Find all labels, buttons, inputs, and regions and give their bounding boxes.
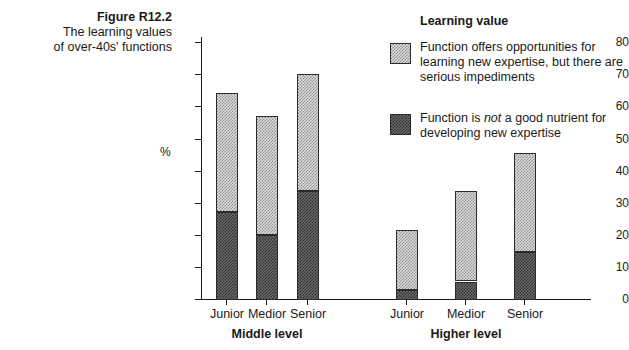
bar-segment-light-middle-medior (256, 116, 278, 235)
legend-item-light: Function offers opportunities for learni… (420, 40, 625, 85)
dark-hatch-swatch-icon (390, 114, 411, 135)
y-tick-60 (195, 106, 202, 107)
x-tick-middle-senior (307, 299, 308, 305)
y-tick-80 (195, 42, 202, 43)
y-tick-70 (195, 74, 202, 75)
y-axis-line (201, 37, 202, 300)
light-hatch-swatch-icon (390, 43, 411, 64)
y-tick-label-10: 10 (451, 261, 629, 273)
bar-segment-dark-higher-medior (455, 282, 477, 300)
y-tick-label-20: 20 (451, 229, 629, 241)
x-label-higher-medior: Medior (436, 307, 496, 321)
legend-item-light-line-2: learning new expertise, but there are (420, 55, 625, 70)
x-tick-higher-senior (524, 299, 525, 305)
legend-dark-emphasis: not (484, 111, 501, 125)
y-tick-label-30: 30 (451, 197, 629, 209)
x-label-higher-senior: Senior (495, 307, 555, 321)
bar-segment-light-higher-junior (396, 230, 418, 290)
y-tick-50 (195, 139, 202, 140)
group-label-higher-level: Higher level (386, 327, 546, 341)
legend-dark-post: a good nutrient for (501, 111, 606, 125)
bar-segment-dark-middle-junior (216, 212, 238, 299)
y-tick-10 (195, 267, 202, 268)
y-tick-30 (195, 203, 202, 204)
y-tick-label-0: 0 (451, 293, 629, 305)
bar-segment-light-higher-medior (455, 191, 477, 281)
figure-root: Figure R12.2 The learning values of over… (0, 0, 629, 350)
x-label-middle-senior: Senior (278, 307, 338, 321)
bar-segment-light-middle-senior (297, 74, 319, 191)
legend-dark-pre: Function is (420, 111, 484, 125)
x-tick-higher-junior (406, 299, 407, 305)
y-tick-0 (195, 299, 202, 300)
bar-segment-dark-higher-senior (514, 252, 536, 299)
bar-segment-dark-middle-medior (256, 235, 278, 300)
x-label-higher-junior: Junior (377, 307, 437, 321)
legend-item-dark-line-2: developing new expertise (420, 126, 625, 141)
legend-item-dark: Function is not a good nutrient for deve… (420, 111, 625, 145)
y-tick-40 (195, 171, 202, 172)
legend-item-light-line-1: Function offers opportunities for (420, 40, 625, 55)
legend-title: Learning value (420, 14, 625, 28)
y-tick-20 (195, 235, 202, 236)
group-label-middle-level: Middle level (187, 327, 347, 341)
bar-segment-light-middle-junior (216, 93, 238, 212)
bar-segment-light-higher-senior (514, 153, 536, 253)
x-tick-middle-medior (266, 299, 267, 305)
y-axis-title: % (160, 145, 171, 159)
bar-segment-dark-middle-senior (297, 191, 319, 299)
x-tick-higher-medior (465, 299, 466, 305)
y-tick-label-40: 40 (451, 165, 629, 177)
legend-item-light-line-3: serious impediments (420, 70, 625, 85)
chart-legend: Learning value Function offers opportuni… (420, 14, 625, 159)
legend-item-dark-line-1: Function is not a good nutrient for (420, 111, 625, 126)
x-tick-middle-junior (226, 299, 227, 305)
